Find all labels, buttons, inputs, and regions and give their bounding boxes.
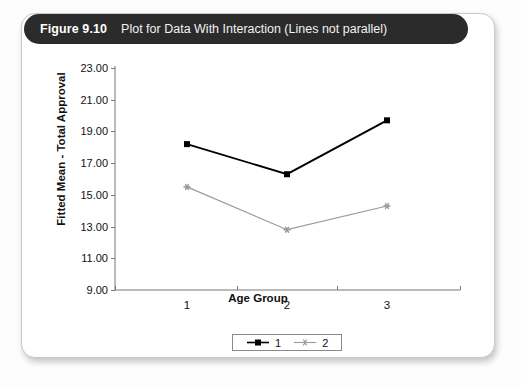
x-axis-title: Age Group [21,292,495,304]
figure-caption-bar: Figure 9.10 Plot for Data With Interacti… [24,14,468,44]
legend-swatch-icon [293,337,317,348]
figure-number: Figure 9.10 [40,22,107,36]
data-point-marker [284,171,290,177]
data-point-marker [384,203,391,209]
data-point-marker [384,117,390,123]
data-point-marker [184,141,190,147]
legend-entry-2: 2 [293,337,328,349]
series-line [187,187,387,230]
series-line [187,120,387,174]
legend-entry-1: 1 [246,337,281,349]
series-1 [184,117,390,177]
legend-label: 1 [275,337,281,349]
legend-swatch-icon [246,337,270,348]
series-2 [184,184,391,233]
data-point-marker [184,184,191,190]
legend-label: 2 [322,337,328,349]
chart-plot-area: Fitted Mean - Total Approval 23.0021.001… [21,48,495,353]
figure-caption-text: Plot for Data With Interaction (Lines no… [121,22,387,36]
figure-root: Figure 9.10 Plot for Data With Interacti… [0,0,521,388]
chart-svg [21,48,495,353]
data-point-marker [284,227,291,233]
chart-legend: 12 [232,334,342,351]
